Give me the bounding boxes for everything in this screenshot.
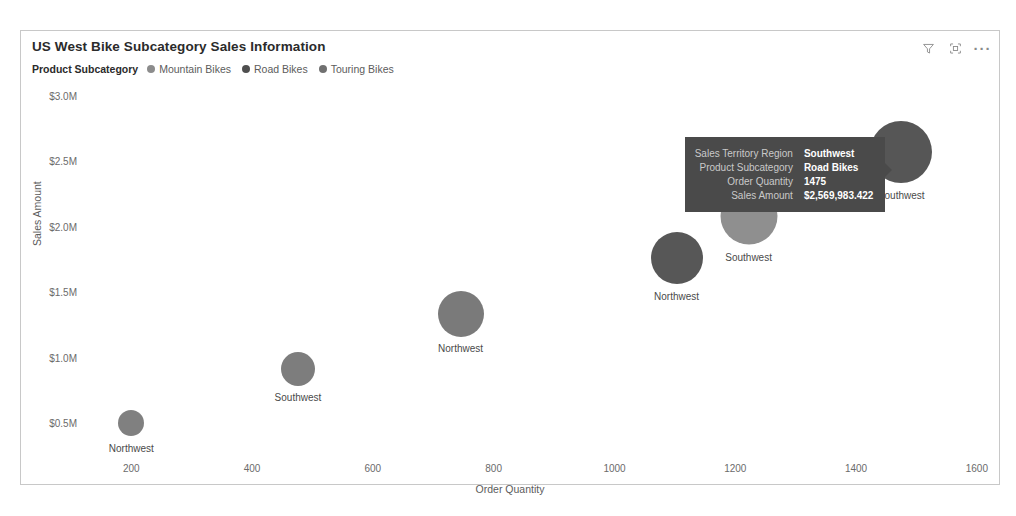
y-tick-label: $1.0M	[49, 352, 77, 363]
y-tick-label: $0.5M	[49, 418, 77, 429]
focus-mode-icon[interactable]	[948, 41, 963, 56]
tooltip-row: Sales Amount $2,569,983.422	[695, 188, 874, 202]
tooltip-value: $2,569,983.422	[804, 188, 874, 202]
legend: Product Subcategory Mountain Bikes Road …	[32, 63, 405, 75]
x-axis-title: Order Quantity	[21, 483, 999, 495]
y-tick-label: $3.0M	[49, 91, 77, 102]
tooltip-value: 1475	[804, 174, 874, 188]
tooltip-value: Southwest	[804, 146, 874, 160]
y-axis-ticks: $3.0M $2.5M $2.0M $1.5M $1.0M $0.5M	[41, 96, 77, 456]
legend-item-label: Mountain Bikes	[159, 63, 231, 75]
bubble-point-label: Southwest	[275, 392, 322, 403]
bubble-point[interactable]	[281, 352, 315, 386]
legend-item-road-bikes[interactable]: Road Bikes	[242, 63, 308, 75]
bubble-point[interactable]	[438, 291, 484, 337]
y-tick-label: $2.0M	[49, 221, 77, 232]
legend-item-label: Touring Bikes	[331, 63, 394, 75]
tooltip-row: Order Quantity 1475	[695, 174, 874, 188]
x-tick-label: 1200	[724, 463, 746, 474]
legend-dot-icon	[242, 65, 250, 73]
y-tick-label: $1.5M	[49, 287, 77, 298]
legend-item-touring-bikes[interactable]: Touring Bikes	[319, 63, 394, 75]
legend-dot-icon	[147, 65, 155, 73]
tooltip-table: Sales Territory Region Southwest Product…	[695, 146, 874, 202]
x-tick-label: 1400	[845, 463, 867, 474]
legend-title: Product Subcategory	[32, 63, 138, 75]
tooltip-key: Sales Territory Region	[695, 146, 804, 160]
visual-actions: ···	[921, 41, 990, 56]
visual-card: US West Bike Subcategory Sales Informati…	[20, 30, 1000, 485]
x-tick-label: 400	[244, 463, 261, 474]
y-tick-label: $2.5M	[49, 156, 77, 167]
bubble-point-label: Northwest	[109, 443, 154, 454]
more-options-icon[interactable]: ···	[975, 41, 990, 56]
tooltip-row: Sales Territory Region Southwest	[695, 146, 874, 160]
tooltip-key: Product Subcategory	[695, 160, 804, 174]
filter-icon[interactable]	[921, 41, 936, 56]
data-point-tooltip: Sales Territory Region Southwest Product…	[685, 137, 886, 212]
legend-item-label: Road Bikes	[254, 63, 308, 75]
tooltip-value: Road Bikes	[804, 160, 874, 174]
tooltip-row: Product Subcategory Road Bikes	[695, 160, 874, 174]
x-tick-label: 800	[485, 463, 502, 474]
x-tick-label: 200	[123, 463, 140, 474]
tooltip-arrow	[885, 163, 892, 177]
plot-area[interactable]: Northwest Southwest Northwest Northwest …	[79, 96, 979, 456]
bubble-point-label: Northwest	[438, 343, 483, 354]
tooltip-key: Sales Amount	[695, 188, 804, 202]
x-tick-label: 1000	[603, 463, 625, 474]
x-tick-label: 600	[365, 463, 382, 474]
bubble-point-label: Northwest	[654, 291, 699, 302]
bubble-point[interactable]	[651, 232, 703, 284]
x-tick-label: 1600	[966, 463, 988, 474]
legend-dot-icon	[319, 65, 327, 73]
tooltip-key: Order Quantity	[695, 174, 804, 188]
page-title: US West Bike Subcategory Sales Informati…	[32, 39, 326, 54]
bubble-point[interactable]	[118, 410, 144, 436]
x-axis-ticks: 200 400 600 800 1000 1200 1400 1600	[79, 463, 979, 479]
legend-item-mountain-bikes[interactable]: Mountain Bikes	[147, 63, 231, 75]
bubble-point-label: Southwest	[725, 252, 772, 263]
